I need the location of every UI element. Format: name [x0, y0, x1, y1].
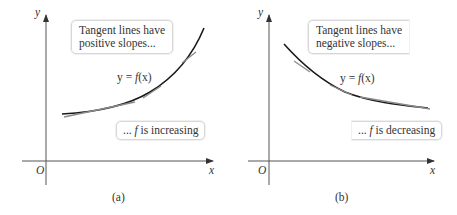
- callout-line: positive slopes...: [79, 37, 165, 50]
- callout-text: is increasing: [138, 124, 199, 136]
- callout-text: is decreasing: [373, 124, 436, 136]
- tangent-line: [64, 102, 135, 117]
- tangent-line: [330, 85, 352, 95]
- y-axis-label: y: [258, 6, 263, 18]
- origin-label: O: [36, 164, 44, 176]
- ellipsis: ...: [358, 124, 370, 136]
- origin-label: O: [258, 164, 266, 176]
- callout-increasing: ... f is increasing: [116, 121, 205, 140]
- x-axis-label: x: [209, 164, 214, 176]
- y-axis-label: y: [35, 6, 40, 18]
- tangent-line: [360, 97, 430, 109]
- tangent-line: [143, 86, 161, 98]
- function-lhs: y =: [117, 71, 135, 83]
- ellipsis: ...: [123, 124, 135, 136]
- function-label: y = f(x): [340, 72, 375, 84]
- callout-negative-slopes: Tangent lines have negative slopes...: [308, 20, 409, 54]
- function-arg: (x): [361, 72, 374, 84]
- callout-positive-slopes: Tangent lines have positive slopes...: [71, 20, 173, 54]
- caption-b: (b): [335, 191, 348, 203]
- callout-line: negative slopes...: [316, 37, 402, 50]
- x-axis-label: x: [430, 164, 435, 176]
- caption-a: (a): [112, 191, 125, 203]
- function-label: y = f(x): [117, 71, 152, 83]
- callout-line: Tangent lines have: [79, 24, 165, 37]
- callout-decreasing: ... f is decreasing: [352, 121, 442, 140]
- function-arg: (x): [138, 71, 151, 83]
- function-lhs: y =: [340, 72, 358, 84]
- tangent-line: [182, 52, 196, 63]
- callout-line: Tangent lines have: [316, 24, 402, 37]
